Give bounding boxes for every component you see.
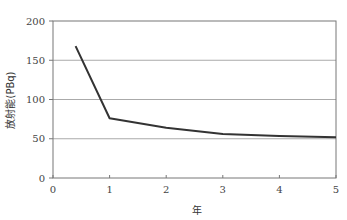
y-axis-label: 放射能(PBq) xyxy=(4,71,16,128)
y-axis-ticks: 050100150200 xyxy=(26,16,53,184)
x-axis-label: 年 xyxy=(192,204,202,216)
y-tick-label: 150 xyxy=(26,55,45,66)
x-tick-label: 5 xyxy=(333,184,339,195)
y-tick-label: 100 xyxy=(26,94,45,105)
grid-lines xyxy=(53,60,336,139)
x-tick-label: 3 xyxy=(220,184,226,195)
x-tick-label: 4 xyxy=(276,184,282,195)
x-tick-label: 0 xyxy=(50,184,56,195)
line-chart: 050100150200 012345 放射能(PBq) 年 xyxy=(0,0,347,220)
x-tick-label: 2 xyxy=(163,184,169,195)
y-tick-label: 200 xyxy=(26,16,45,27)
y-tick-label: 50 xyxy=(32,133,45,144)
y-tick-label: 0 xyxy=(39,173,45,184)
x-tick-label: 1 xyxy=(106,184,112,195)
